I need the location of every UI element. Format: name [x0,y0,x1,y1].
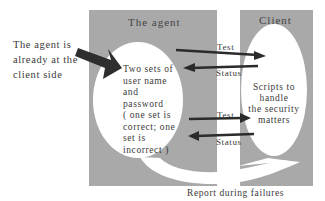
report-label: Report during failures [187,187,284,199]
agent-title: The agent [128,16,181,28]
side-note: The agent is already at the client side [13,37,78,82]
arrow-label-status-2: Status [216,136,242,148]
arrow-label-test-1: Test [217,41,234,53]
client-title: Client [259,14,292,26]
client-content: Scripts to handle the security matters [248,82,300,126]
arrow-label-test-2: Test [217,109,234,121]
agent-content: Two sets of user name and password ( one… [123,64,175,156]
arrow-label-status-1: Status [216,67,242,79]
